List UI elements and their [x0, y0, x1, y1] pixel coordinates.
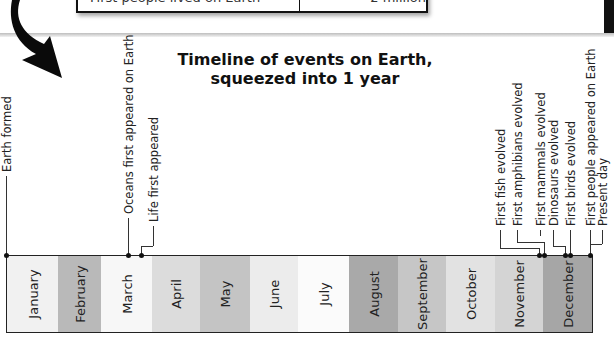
month-december: December: [543, 256, 592, 332]
table-cell-years: 2 million: [300, 0, 426, 11]
month-label: February: [72, 265, 87, 323]
event-label: Dinosaurs evolved: [547, 120, 561, 226]
curved-arrow-icon: [0, 0, 70, 82]
month-bar: January February March April May June Ju…: [6, 256, 593, 333]
month-label: September: [415, 258, 430, 330]
month-april: April: [152, 256, 200, 332]
event-label: Earth formed: [0, 96, 14, 172]
title-line-1: Timeline of events on Earth,: [150, 50, 460, 69]
month-label: May: [218, 281, 233, 308]
event-label: Oceans first appeared on Earth: [122, 34, 136, 214]
event-label: First amphibians evolved: [511, 82, 525, 226]
page-divider: [0, 33, 614, 37]
month-february: February: [58, 256, 101, 332]
month-label: October: [463, 268, 478, 320]
event-label: Present day: [596, 158, 610, 226]
dark-edge: [604, 0, 614, 33]
month-june: June: [250, 256, 298, 332]
month-november: November: [495, 256, 543, 332]
event-label: Life first appeared: [147, 117, 161, 222]
month-label: April: [169, 279, 184, 309]
month-label: March: [119, 274, 134, 314]
month-label: July: [316, 282, 331, 305]
diagram-title: Timeline of events on Earth, squeezed in…: [150, 50, 460, 88]
table-cell-event: First people lived on Earth: [78, 0, 300, 11]
month-july: July: [298, 256, 349, 332]
month-label: December: [560, 260, 575, 327]
month-label: January: [25, 269, 40, 318]
previous-table-fragment: First people lived on Earth 2 million: [76, 0, 428, 13]
month-march: March: [101, 256, 152, 332]
month-august: August: [349, 256, 398, 332]
event-label: First fish evolved: [494, 129, 508, 226]
month-october: October: [446, 256, 495, 332]
month-may: May: [200, 256, 250, 332]
month-label: August: [366, 271, 381, 317]
month-label: November: [512, 260, 527, 328]
month-label: June: [267, 280, 282, 308]
event-label: First mammals evolved: [534, 92, 548, 226]
title-line-2: squeezed into 1 year: [150, 69, 460, 88]
month-january: January: [7, 256, 58, 332]
month-september: September: [398, 256, 446, 332]
event-label: First birds evolved: [564, 121, 578, 226]
